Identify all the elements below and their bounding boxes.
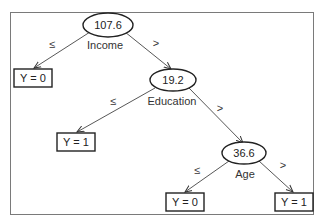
threshold-education: 19.2 bbox=[162, 74, 183, 86]
leaf-node-y1-bottom: Y = 1 bbox=[275, 193, 313, 211]
edge-income-gt bbox=[125, 32, 171, 69]
edge-label-age-gt: > bbox=[280, 159, 286, 171]
leaf-node-y0-bottom: Y = 0 bbox=[166, 193, 204, 211]
edge-label-income-le: ≤ bbox=[49, 38, 55, 50]
split-node-age: 36.6 Age bbox=[222, 142, 266, 180]
edge-education-gt bbox=[189, 88, 243, 143]
edge-label-education-gt: > bbox=[217, 102, 223, 114]
feature-label-education: Education bbox=[148, 95, 197, 107]
leaf-label: Y = 1 bbox=[63, 136, 89, 148]
leaf-label: Y = 1 bbox=[281, 196, 307, 208]
edge-income-le bbox=[34, 32, 90, 68]
edge-age-gt bbox=[259, 161, 293, 192]
edge-label-education-le: ≤ bbox=[110, 95, 116, 107]
feature-label-income: Income bbox=[87, 39, 123, 51]
edge-age-le bbox=[185, 161, 229, 192]
edge-label-income-gt: > bbox=[153, 37, 159, 49]
feature-label-age: Age bbox=[235, 168, 255, 180]
threshold-income: 107.6 bbox=[94, 19, 122, 31]
leaf-label: Y = 0 bbox=[172, 196, 198, 208]
edge-label-age-le: ≤ bbox=[194, 164, 200, 176]
leaf-label: Y = 0 bbox=[20, 72, 46, 84]
threshold-age: 36.6 bbox=[233, 147, 254, 159]
decision-tree-diagram: ≤ > ≤ > ≤ > 107.6 Income Y = 0 19.2 Educ… bbox=[0, 0, 323, 223]
leaf-node-y0-top: Y = 0 bbox=[14, 69, 52, 87]
split-node-income: 107.6 Income bbox=[83, 13, 133, 51]
leaf-node-y1-mid: Y = 1 bbox=[57, 133, 95, 151]
